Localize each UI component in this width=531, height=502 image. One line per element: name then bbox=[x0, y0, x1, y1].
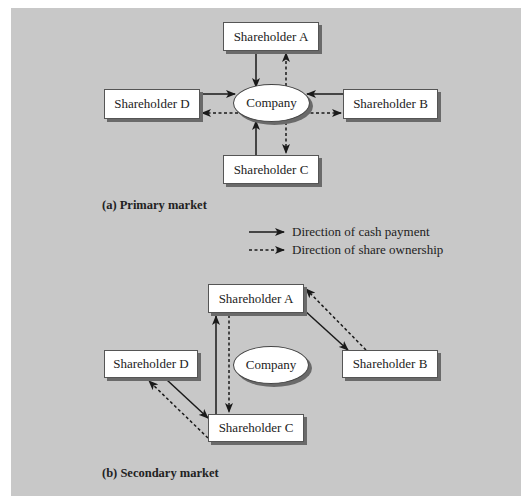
secondary-cash-a-to-b bbox=[304, 310, 348, 350]
primary-market-caption: (a) Primary market bbox=[102, 198, 207, 213]
primary-shareholder-d: Shareholder D bbox=[104, 89, 200, 119]
node-label: Company bbox=[246, 95, 297, 111]
secondary-shareholder-b: Shareholder B bbox=[342, 350, 438, 378]
node-label: Shareholder D bbox=[113, 356, 188, 372]
node-label: Shareholder B bbox=[353, 356, 428, 372]
secondary-shareholder-c: Shareholder C bbox=[208, 414, 304, 442]
node-label: Shareholder A bbox=[234, 29, 309, 45]
legend-share-ownership: Direction of share ownership bbox=[292, 242, 443, 258]
primary-company: Company bbox=[233, 84, 310, 122]
legend-cash-payment: Direction of cash payment bbox=[292, 224, 430, 240]
node-label: Shareholder A bbox=[219, 291, 294, 307]
secondary-market-caption: (b) Secondary market bbox=[102, 466, 219, 481]
node-label: Shareholder B bbox=[353, 96, 428, 112]
node-label: Shareholder C bbox=[219, 420, 294, 436]
primary-shareholder-a: Shareholder A bbox=[223, 22, 319, 51]
secondary-shareholder-d: Shareholder D bbox=[104, 350, 198, 378]
node-label: Shareholder C bbox=[234, 162, 309, 178]
primary-shareholder-b: Shareholder B bbox=[343, 89, 438, 119]
secondary-company: Company bbox=[233, 346, 309, 384]
node-label: Company bbox=[246, 357, 297, 373]
node-label: Shareholder D bbox=[114, 96, 189, 112]
secondary-cash-d-to-c bbox=[167, 380, 208, 418]
primary-shareholder-c: Shareholder C bbox=[223, 155, 319, 184]
secondary-shareholder-a: Shareholder A bbox=[208, 284, 304, 313]
